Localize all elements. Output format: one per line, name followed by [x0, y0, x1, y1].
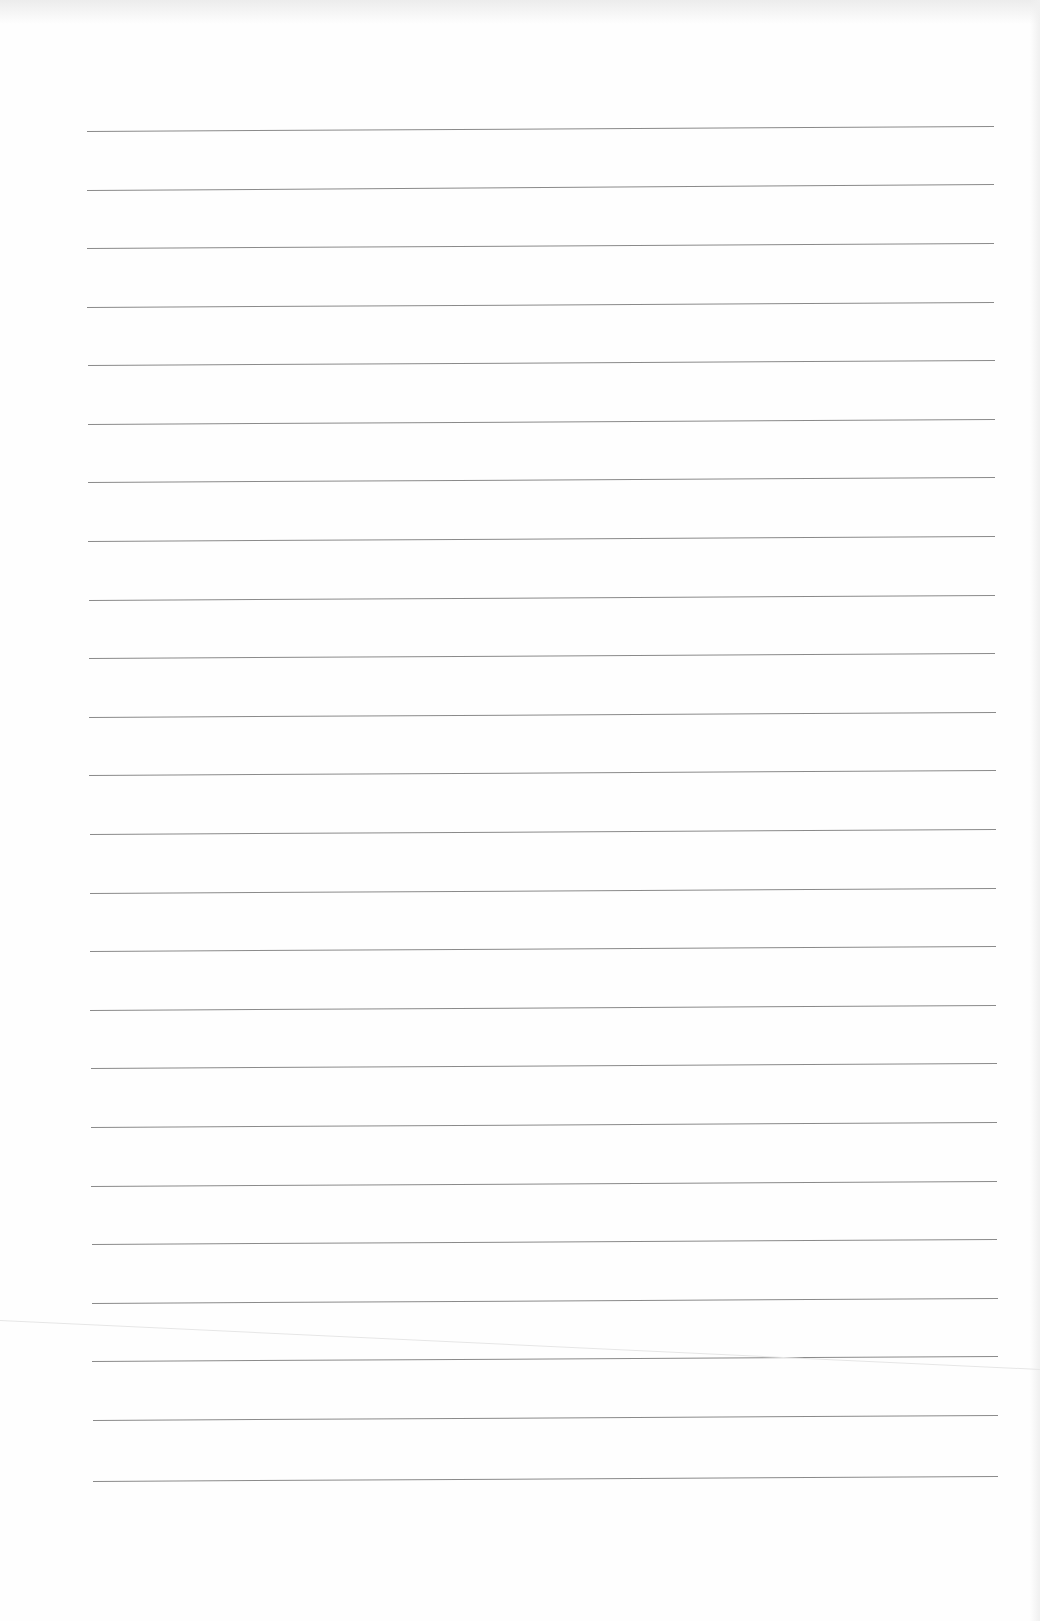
ruled-line [87, 243, 994, 249]
ruled-line [93, 1415, 998, 1421]
ruled-line [88, 360, 995, 366]
ruled-line [93, 1476, 998, 1482]
ruled-line [89, 653, 995, 659]
ruled-line [87, 302, 994, 308]
ruled-line [90, 1005, 996, 1011]
ruled-line [88, 477, 995, 483]
scan-top-shadow [0, 0, 1040, 24]
ruled-line [90, 829, 996, 835]
ruled-line [88, 419, 995, 425]
ruled-line [91, 1122, 997, 1128]
ruled-line [92, 1298, 998, 1304]
ruled-line [88, 536, 995, 542]
ruled-line [92, 1239, 997, 1245]
paper-crease [0, 1320, 1040, 1370]
ruled-line [91, 1063, 997, 1069]
ruled-line [89, 595, 995, 601]
ruled-line [87, 126, 994, 132]
ruled-line [90, 888, 996, 894]
scan-right-shadow [1030, 0, 1040, 1621]
ruled-line [89, 712, 996, 718]
ruled-line [87, 184, 994, 191]
ruled-line [90, 946, 996, 952]
lined-paper-page [0, 0, 1040, 1621]
ruled-line [91, 1181, 997, 1187]
ruled-line [89, 770, 996, 776]
